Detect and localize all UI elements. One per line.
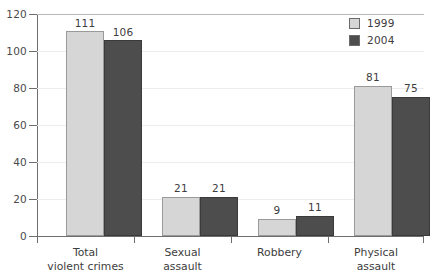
bar-value-total-violent-crimes-1999: 111 — [66, 18, 104, 29]
y-tick-label: 60 — [1, 120, 27, 131]
bar-value-physical-assault-1999: 81 — [354, 72, 392, 83]
bar-total-violent-crimes-2004[interactable] — [104, 40, 142, 236]
x-tick-mark — [37, 237, 38, 243]
y-axis-labels: 120 100 80 60 40 20 0 — [0, 0, 27, 272]
y-tick-label: 80 — [1, 83, 27, 94]
bar-value-total-violent-crimes-2004: 106 — [104, 27, 142, 38]
x-category-label-sexual-assault: Sexual assault — [134, 246, 231, 272]
y-tick-mark — [29, 14, 37, 15]
legend-item-1999[interactable]: 1999 — [349, 16, 395, 30]
legend-label-1999: 1999 — [367, 18, 395, 29]
x-tick-mark — [328, 237, 329, 243]
bar-value-robbery-2004: 11 — [296, 202, 334, 213]
x-tick-mark — [134, 237, 135, 243]
legend-label-2004: 2004 — [367, 35, 395, 46]
legend-swatch-icon-1999 — [349, 18, 360, 29]
bar-value-sexual-assault-1999: 21 — [162, 183, 200, 194]
bar-robbery-1999[interactable] — [258, 219, 296, 236]
gridline-120 — [37, 14, 424, 15]
legend-swatch-icon-2004 — [349, 35, 360, 46]
legend-item-2004[interactable]: 2004 — [349, 33, 395, 47]
bar-robbery-2004[interactable] — [296, 216, 334, 236]
legend: 1999 2004 — [349, 16, 395, 50]
bar-value-physical-assault-2004: 75 — [392, 83, 430, 94]
y-tick-label: 0 — [1, 231, 27, 242]
y-tick-label: 20 — [1, 194, 27, 205]
bar-physical-assault-2004[interactable] — [392, 97, 430, 236]
bar-value-robbery-1999: 9 — [258, 205, 296, 216]
y-tick-label: 100 — [1, 46, 27, 57]
x-category-label-physical-assault: Physical assault — [328, 246, 424, 272]
bar-physical-assault-1999[interactable] — [354, 86, 392, 236]
bar-total-violent-crimes-1999[interactable] — [66, 31, 104, 236]
y-tick-label: 40 — [1, 157, 27, 168]
x-category-label-robbery: Robbery — [231, 246, 328, 260]
y-tick-mark — [29, 51, 37, 52]
bar-value-sexual-assault-2004: 21 — [200, 183, 238, 194]
x-tick-mark — [423, 237, 424, 243]
y-tick-mark — [29, 88, 37, 89]
x-category-label-total-violent-crimes: Total violent crimes — [37, 246, 134, 272]
y-tick-mark — [29, 236, 37, 237]
y-tick-mark — [29, 125, 37, 126]
bar-sexual-assault-1999[interactable] — [162, 197, 200, 236]
bar-sexual-assault-2004[interactable] — [200, 197, 238, 236]
y-tick-mark — [29, 199, 37, 200]
y-tick-mark — [29, 162, 37, 163]
x-tick-mark — [231, 237, 232, 243]
y-tick-label: 120 — [1, 9, 27, 20]
